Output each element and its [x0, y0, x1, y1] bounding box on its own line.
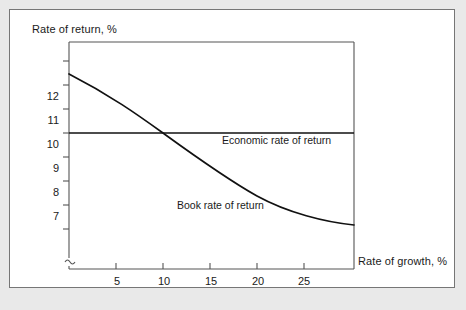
y-tick-label-10: 10 — [37, 138, 59, 150]
y-tick-label-12: 12 — [37, 90, 59, 102]
y-tick-label-11: 11 — [37, 114, 59, 126]
y-axis-ticks — [63, 61, 69, 229]
x-tick-label-20: 20 — [246, 275, 270, 287]
x-tick-label-10: 10 — [152, 275, 176, 287]
series-label-book-rate-of-return: Book rate of return — [177, 199, 264, 211]
x-tick-label-15: 15 — [199, 275, 223, 287]
y-axis-title: Rate of return, % — [32, 23, 117, 35]
y-tick-label-7: 7 — [37, 210, 59, 222]
x-tick-label-5: 5 — [105, 275, 129, 287]
y-tick-label-9: 9 — [37, 162, 59, 174]
figure-card: Rate of return, % Rate of growth, % 12 1… — [9, 9, 455, 288]
x-axis-title: Rate of growth, % — [358, 255, 447, 267]
y-tick-label-8: 8 — [37, 186, 59, 198]
x-axis-ticks — [116, 263, 304, 269]
y-axis-break-symbol — [65, 260, 75, 264]
x-tick-label-25: 25 — [292, 275, 316, 287]
axis-break-squiggle — [65, 260, 75, 264]
chart-svg — [10, 10, 456, 289]
axis-frame — [69, 42, 354, 269]
chart-plot-area: Rate of return, % Rate of growth, % 12 1… — [10, 10, 456, 289]
series-label-economic-rate-of-return: Economic rate of return — [222, 134, 331, 146]
